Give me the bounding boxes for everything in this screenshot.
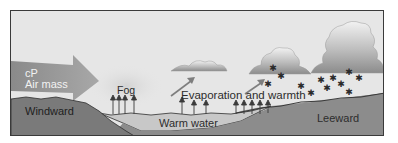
air-mass-label: Air mass <box>25 79 68 90</box>
windward-label: Windward <box>25 106 74 117</box>
fog-label: Fog <box>117 85 135 96</box>
svg-text:✱: ✱ <box>345 67 353 77</box>
small-flat-cloud <box>171 61 227 71</box>
svg-text:✱: ✱ <box>345 87 353 97</box>
svg-text:✱: ✱ <box>337 79 345 89</box>
svg-text:✱: ✱ <box>323 83 331 93</box>
svg-text:✱: ✱ <box>264 79 272 89</box>
leeward-label: Leeward <box>317 113 359 124</box>
svg-text:✱: ✱ <box>355 73 363 83</box>
svg-text:✱: ✱ <box>329 73 337 83</box>
lake-effect-diagram: ✱ ✱ ✱ ✱ ✱ ✱ ✱ ✱ ✱ ✱ ✱ ✱ cP Air mass Fog … <box>10 10 384 136</box>
svg-text:✱: ✱ <box>277 71 285 81</box>
svg-text:✱: ✱ <box>307 88 315 98</box>
evaporation-label: Evaporation and warmth <box>181 90 306 101</box>
large-cumulus-cloud <box>311 21 383 73</box>
warm-water-label: Warm water <box>159 118 218 129</box>
svg-text:✱: ✱ <box>269 63 277 73</box>
